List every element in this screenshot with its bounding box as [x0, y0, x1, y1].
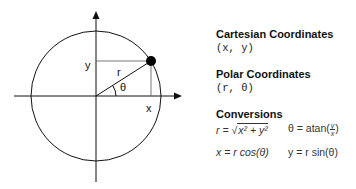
theta-formula: θ = atan(yx): [288, 122, 339, 137]
r-label: r: [117, 66, 121, 78]
polar-notation: (r, θ): [216, 82, 254, 94]
conversions-title: Conversions: [216, 108, 283, 120]
r-radicand: x² + y²: [237, 123, 267, 136]
r-formula: r = √x² + y²: [216, 124, 268, 136]
y-label: y: [85, 59, 91, 71]
angle-arc: [113, 86, 116, 96]
polar-title: Polar Coordinates: [216, 68, 311, 80]
x-formula: x = r cos(θ): [216, 146, 269, 158]
polar-diagram: y r θ x: [0, 0, 200, 189]
cartesian-title: Cartesian Coordinates: [216, 28, 333, 40]
cartesian-notation: (x, y): [216, 42, 254, 54]
x-axis-arrow-icon: [174, 93, 182, 100]
theta-label: θ: [120, 81, 126, 93]
x-label: x: [146, 102, 152, 114]
y-axis-arrow-icon: [93, 11, 100, 19]
point-marker: [146, 56, 156, 66]
y-formula: y = r sin(θ): [288, 146, 338, 158]
